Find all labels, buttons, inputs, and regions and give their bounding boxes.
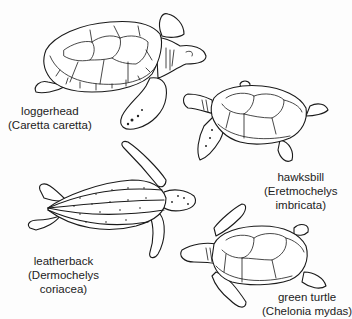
loggerhead-scientific-name: (Caretta caretta) [8, 118, 92, 132]
leatherback-front-flipper-bottom [150, 214, 165, 258]
leatherback-common-name: leatherback [28, 254, 99, 268]
green-turtle-label: green turtle (Chelonia mydas) [262, 290, 352, 318]
hawksbill-label: hawksbill (Eretmochelys imbricata) [264, 170, 338, 212]
green-turtle-scientific-name: (Chelonia mydas) [262, 304, 352, 318]
hawksbill-common-name: hawksbill [264, 170, 338, 184]
hawksbill-scientific-name-line1: (Eretmochelys [264, 184, 338, 198]
leatherback-label: leatherback (Dermochelys coriacea) [28, 254, 99, 296]
hawksbill-scientific-name-line2: imbricata) [264, 198, 338, 212]
loggerhead-label: loggerhead (Caretta caretta) [8, 104, 92, 132]
leatherback-scientific-name-line2: coriacea) [28, 282, 99, 296]
leatherback-drawing [28, 141, 195, 257]
hawksbill-head [184, 94, 215, 114]
loggerhead-head [156, 38, 206, 78]
leatherback-head [162, 190, 196, 211]
sea-turtle-diagram: loggerhead (Caretta caretta) hawksbill (… [0, 0, 352, 319]
leatherback-scientific-name-line1: (Dermochelys [28, 268, 99, 282]
loggerhead-top-flipper [159, 14, 184, 38]
green-turtle-common-name: green turtle [262, 290, 352, 304]
loggerhead-common-name: loggerhead [8, 104, 92, 118]
hawksbill-drawing [184, 81, 329, 161]
